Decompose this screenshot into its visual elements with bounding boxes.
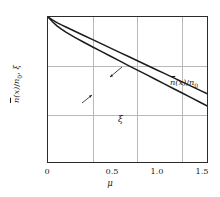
y-tick-minor <box>47 22 48 23</box>
annotation-leader-xi <box>82 95 92 103</box>
x-tick-minor <box>102 162 103 163</box>
curve-group <box>48 17 208 163</box>
x-tick-minor <box>75 162 76 163</box>
x-tick-minor <box>66 162 67 163</box>
x-tick-minor <box>120 162 121 163</box>
y-tick-minor <box>47 77 48 78</box>
x-tick-label-1-0: 1.0 <box>145 166 169 176</box>
y-tick-minor <box>47 25 48 26</box>
y-tick-minor <box>47 74 48 75</box>
x-tick-minor <box>164 162 165 163</box>
y-tick-minor <box>47 134 48 135</box>
x-tick-minor <box>111 162 112 163</box>
y-tick-minor <box>47 123 48 124</box>
x-tick-label-0-5: 0.5 <box>100 166 124 176</box>
y-tick-minor <box>47 141 48 142</box>
x-tick-minor <box>146 162 147 163</box>
y-tick-minor <box>47 81 48 82</box>
y-tick-minor <box>47 120 48 121</box>
x-tick-minor <box>200 162 201 163</box>
y-tick-minor <box>47 85 48 86</box>
x-tick-minor <box>84 162 85 163</box>
x-tick-minor <box>128 162 129 163</box>
annotation-n-bar-over-n0: n(x)/n0 <box>170 77 198 89</box>
x-tick-major <box>182 162 183 163</box>
x-tick-minor <box>155 162 156 163</box>
y-tick-minor <box>47 71 48 72</box>
plot-area: n(x)/n0 ξ <box>47 16 208 163</box>
x-axis-label: μ <box>0 178 220 188</box>
y-tick-minor <box>47 130 48 131</box>
y-tick-minor <box>47 32 48 33</box>
y-tick-major <box>47 115 48 116</box>
y-tick-minor <box>47 43 48 44</box>
y-tick-minor <box>47 92 48 93</box>
x-tick-major <box>137 162 138 163</box>
y-tick-minor <box>47 36 48 37</box>
y-tick-minor <box>47 19 48 20</box>
y-tick-minor <box>47 100 48 101</box>
x-tick-label-0: 0 <box>38 166 56 176</box>
x-tick-minor <box>173 162 174 163</box>
y-tick-minor <box>47 117 48 118</box>
y-tick-minor <box>47 28 48 29</box>
y-tick-minor <box>47 126 48 127</box>
x-tick-minor <box>191 162 192 163</box>
y-tick-minor <box>47 149 48 150</box>
x-tick-label-1-5: 1.5 <box>190 166 214 176</box>
x-tick-major <box>93 162 94 163</box>
x-tick-major <box>48 162 49 163</box>
x-tick-minor <box>57 162 58 163</box>
y-tick-major <box>47 66 48 67</box>
y-tick-minor <box>47 51 48 52</box>
annotation-leader-n-bar <box>110 67 122 77</box>
y-axis-label: n(x)/n0, ξ <box>11 36 23 132</box>
annotation-xi: ξ <box>118 114 123 124</box>
y-tick-minor <box>47 68 48 69</box>
figure-semilog-decay-plot: n(x)/n0, ξ 1.0 10−1 10−2 10−3 0 0.5 1.0 … <box>0 0 220 197</box>
y-tick-major <box>47 17 48 18</box>
